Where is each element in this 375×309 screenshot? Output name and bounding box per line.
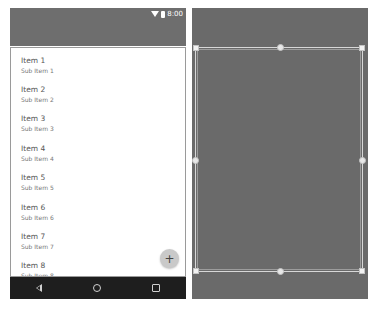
selection-outline[interactable]	[195, 47, 363, 272]
item-title: Item 4	[21, 144, 171, 154]
battery-icon	[161, 11, 165, 18]
list-item[interactable]: Item 7 Sub Item 7	[21, 232, 171, 251]
item-subtitle: Sub Item 4	[21, 154, 171, 163]
item-title: Item 6	[21, 203, 171, 213]
list-item[interactable]: Item 6 Sub Item 6	[21, 203, 171, 222]
app-bar: 8:00	[10, 8, 186, 46]
resize-handle-top-right[interactable]	[359, 45, 365, 51]
resize-handle-bottom-center[interactable]	[277, 268, 284, 275]
item-title: Item 5	[21, 173, 171, 183]
resize-handle-middle-right[interactable]	[359, 157, 366, 164]
item-subtitle: Sub Item 5	[21, 183, 171, 192]
add-fab-button[interactable]: +	[160, 249, 179, 268]
status-bar: 8:00	[10, 8, 186, 20]
item-title: Item 8	[21, 261, 171, 271]
list-item[interactable]: Item 3 Sub Item 3	[21, 114, 171, 133]
item-subtitle: Sub Item 1	[21, 66, 171, 75]
item-subtitle: Sub Item 7	[21, 242, 171, 251]
item-subtitle: Sub Item 2	[21, 95, 171, 104]
design-preview[interactable]: 8:00 Item 1 Sub Item 1 Item 2 Sub Item 2…	[10, 8, 186, 299]
list-item[interactable]: Item 8 Sub Item 8	[21, 261, 171, 277]
item-title: Item 7	[21, 232, 171, 242]
list-item[interactable]: Item 5 Sub Item 5	[21, 173, 171, 192]
list-item[interactable]: Item 4 Sub Item 4	[21, 144, 171, 163]
blueprint-preview[interactable]	[192, 8, 368, 299]
home-icon[interactable]	[93, 284, 101, 292]
resize-handle-bottom-left[interactable]	[193, 268, 199, 274]
plus-icon: +	[164, 253, 174, 265]
recycler-list[interactable]: Item 1 Sub Item 1 Item 2 Sub Item 2 Item…	[10, 47, 186, 277]
navigation-bar	[10, 277, 186, 299]
status-time: 8:00	[167, 8, 183, 20]
item-title: Item 1	[21, 56, 171, 66]
resize-handle-top-center[interactable]	[277, 44, 284, 51]
wifi-icon	[151, 11, 159, 17]
item-subtitle: Sub Item 6	[21, 213, 171, 222]
item-title: Item 3	[21, 114, 171, 124]
resize-handle-top-left[interactable]	[193, 45, 199, 51]
item-subtitle: Sub Item 3	[21, 124, 171, 133]
resize-handle-bottom-right[interactable]	[359, 268, 365, 274]
list-item[interactable]: Item 2 Sub Item 2	[21, 85, 171, 104]
list-item[interactable]: Item 1 Sub Item 1	[21, 56, 171, 75]
recents-icon[interactable]	[152, 284, 160, 292]
back-icon[interactable]	[36, 284, 42, 292]
item-title: Item 2	[21, 85, 171, 95]
resize-handle-middle-left[interactable]	[192, 157, 199, 164]
